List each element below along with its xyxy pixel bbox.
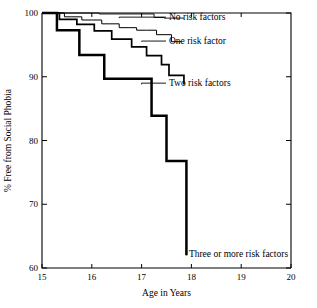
- chart-container: 151617181920 60708090100 No risk factors…: [0, 0, 317, 308]
- y-tick-label: 100: [25, 8, 39, 18]
- x-axis-title: Age in Years: [142, 288, 191, 298]
- series-leader-lines: [119, 17, 186, 255]
- series-label-one-risk-factor: One risk factor: [169, 36, 227, 46]
- y-axis-title: % Free from Social Phobia: [3, 88, 13, 192]
- x-tick-label: 15: [38, 272, 48, 282]
- series-label-no-risk-factors: No risk factors: [169, 12, 226, 22]
- leader-line-2: [142, 83, 166, 84]
- survival-chart: 151617181920 60708090100 No risk factors…: [0, 0, 317, 308]
- curve-three-or-more-risk-factors: [42, 13, 186, 255]
- y-tick-label: 60: [29, 263, 39, 273]
- leader-line-1: [142, 41, 166, 42]
- x-tick-label: 16: [87, 272, 97, 282]
- series-curves: [42, 13, 186, 255]
- series-label-three-or-more-risk-factors: Three or more risk factors: [189, 249, 288, 259]
- x-tick-label: 19: [237, 272, 247, 282]
- x-tick-label: 18: [187, 272, 197, 282]
- y-axis-ticks: 60708090100: [25, 8, 292, 273]
- x-tick-label: 20: [287, 272, 297, 282]
- series-label-two-risk-factors: Two risk factors: [169, 78, 231, 88]
- y-tick-label: 90: [29, 72, 39, 82]
- leader-line-3: [186, 253, 187, 255]
- y-tick-label: 80: [29, 136, 39, 146]
- y-tick-label: 70: [29, 199, 39, 209]
- x-tick-label: 17: [137, 272, 147, 282]
